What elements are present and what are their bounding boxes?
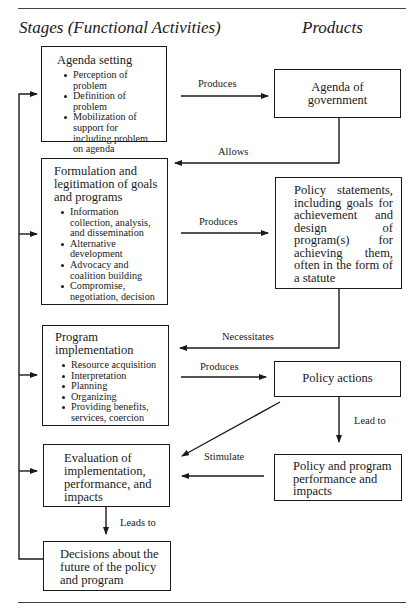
stage-program-implementation: Program implementation Resource acquisit… — [42, 325, 169, 426]
edge-label-necessitates: Necessitates — [222, 331, 274, 342]
list-item: Definition of problem — [67, 91, 158, 112]
stage-agenda-setting: Agenda setting Perception of problem Def… — [41, 46, 167, 142]
list-item: Mobilization of support for including pr… — [67, 112, 158, 154]
stage-title: Formulation and legitimation of goals an… — [54, 165, 159, 204]
stage-decisions: Decisions about the future of the policy… — [43, 541, 171, 591]
edge-label-produces: Produces — [198, 78, 237, 89]
list-item: Alternative development — [64, 239, 159, 260]
stage-title: Decisions about the future of the policy… — [60, 548, 162, 587]
edge-label-produces: Produces — [199, 216, 238, 227]
list-item: Compromise, negotiation, decision — [64, 281, 159, 302]
product-policy-actions: Policy actions — [274, 361, 401, 397]
stage-title: Program implementation — [55, 331, 160, 357]
product-text: Agenda of government — [308, 80, 368, 107]
edge-label-lead-to: Lead to — [354, 415, 386, 426]
product-text: Policy and program performance and impac… — [293, 459, 392, 498]
list-item: Resource acquisition — [65, 360, 160, 371]
edge-label-produces: Produces — [200, 361, 239, 372]
list-item: Advocacy and coalition building — [64, 260, 159, 281]
product-text: Policy actions — [302, 371, 372, 385]
edge-label-leads-to: Leads to — [120, 517, 156, 528]
stage-formulation: Formulation and legitimation of goals an… — [41, 158, 168, 305]
product-text: Policy statements, including goals for a… — [294, 183, 393, 285]
list-item: Information collection, analysis, and di… — [64, 207, 159, 239]
stage-title: Evaluation of implementation, performanc… — [64, 452, 161, 504]
list-item: Perception of problem — [67, 70, 158, 91]
edge-label-stimulate: Stimulate — [204, 451, 244, 462]
edge-label-allows: Allows — [218, 146, 248, 157]
product-agenda-of-government: Agenda of government — [274, 69, 401, 118]
list-item: Providing benefits, services, coercion — [65, 402, 160, 423]
bottom-rule — [18, 602, 406, 603]
stage-evaluation: Evaluation of implementation, performanc… — [43, 444, 170, 507]
product-performance-impacts: Policy and program performance and impac… — [274, 454, 402, 501]
stage-title: Agenda setting — [57, 54, 158, 67]
product-policy-statements: Policy statements, including goals for a… — [275, 177, 402, 289]
